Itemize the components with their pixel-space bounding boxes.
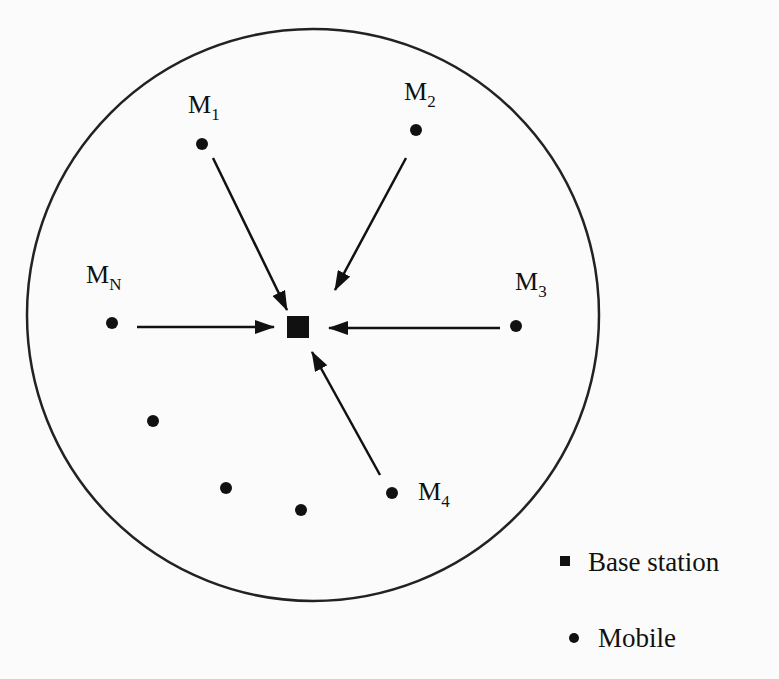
legend-circle-icon xyxy=(569,633,579,643)
legend-base-station-label: Base station xyxy=(588,547,720,577)
legend-square-icon xyxy=(560,556,570,566)
uplink-arrows xyxy=(137,158,500,475)
mobile-label-mn: MN xyxy=(86,260,121,294)
mobile-dot-icon xyxy=(196,138,208,150)
mobile-dot-icon xyxy=(220,482,232,494)
arrow-m2 xyxy=(335,158,406,290)
mobile-label-m3: M3 xyxy=(515,267,547,301)
legend-mobile-label: Mobile xyxy=(598,623,676,653)
mobile-dot-icon xyxy=(386,487,398,499)
cell-diagram: M1M2M3M4MN Base station Mobile xyxy=(0,0,779,679)
mobile-dot-icon xyxy=(410,124,422,136)
mobile-label-m4: M4 xyxy=(418,477,450,511)
base-station-icon xyxy=(287,316,309,338)
arrow-m1 xyxy=(213,158,287,310)
legend: Base station Mobile xyxy=(560,547,720,653)
arrow-m4 xyxy=(312,352,380,475)
mobile-dot-icon xyxy=(510,320,522,332)
mobile-label-m1: M1 xyxy=(188,90,220,124)
mobile-dot-icon xyxy=(147,415,159,427)
mobile-dot-icon xyxy=(295,504,307,516)
mobile-dot-icon xyxy=(106,317,118,329)
mobiles: M1M2M3M4MN xyxy=(86,77,547,516)
cell-boundary xyxy=(27,29,599,601)
mobile-label-m2: M2 xyxy=(404,77,436,111)
